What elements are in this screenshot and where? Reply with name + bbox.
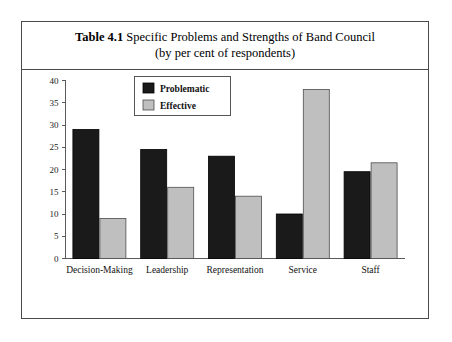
category-label: Representation xyxy=(207,265,264,275)
bar xyxy=(371,163,397,259)
legend-light-swatch xyxy=(143,100,154,110)
bar xyxy=(303,89,329,258)
y-tick-label: 15 xyxy=(50,187,60,197)
bar xyxy=(168,187,194,258)
y-tick-label: 20 xyxy=(50,165,60,175)
bar-chart: 0510152025303540 Decision-MakingLeadersh… xyxy=(22,70,428,319)
bar xyxy=(141,150,167,259)
bar xyxy=(73,130,99,259)
category-labels: Decision-MakingLeadershipRepresentationS… xyxy=(66,265,380,275)
bar xyxy=(344,172,370,259)
caption-title-text: Specific Problems and Strengths of Band … xyxy=(126,30,375,44)
bar xyxy=(276,214,302,259)
legend-label-problematic: Problematic xyxy=(160,84,209,94)
bar xyxy=(209,156,235,258)
bars-layer xyxy=(73,89,397,258)
category-label: Decision-Making xyxy=(66,265,133,275)
y-tick-label: 5 xyxy=(54,231,59,241)
caption-subtitle: (by per cent of respondents) xyxy=(155,46,295,62)
chart-plot-area: 0510152025303540 Decision-MakingLeadersh… xyxy=(22,70,428,319)
caption-table-label: Table 4.1 xyxy=(75,30,123,44)
category-label: Staff xyxy=(361,265,380,275)
category-label: Leadership xyxy=(146,265,188,275)
y-axis-ticks: 0510152025303540 xyxy=(50,76,66,264)
legend-dark-swatch xyxy=(143,83,154,93)
legend-label-effective: Effective xyxy=(160,101,196,111)
y-tick-label: 40 xyxy=(50,76,60,86)
figure-caption: Table 4.1 Specific Problems and Strength… xyxy=(22,22,428,70)
category-label: Service xyxy=(289,265,318,275)
chart-legend: Problematic Effective xyxy=(135,77,231,116)
y-tick-label: 0 xyxy=(54,254,59,264)
bar xyxy=(100,218,126,258)
y-tick-label: 30 xyxy=(50,120,60,130)
y-tick-label: 25 xyxy=(50,142,60,152)
y-tick-label: 35 xyxy=(50,98,60,108)
bar xyxy=(236,196,262,258)
caption-title-line: Table 4.1 Specific Problems and Strength… xyxy=(75,30,375,46)
y-tick-label: 10 xyxy=(50,209,60,219)
figure-frame: Table 4.1 Specific Problems and Strength… xyxy=(21,21,429,319)
